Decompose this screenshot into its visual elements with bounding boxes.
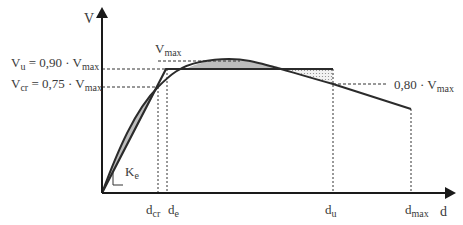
v080-main: 0,80 · V bbox=[394, 77, 437, 92]
vu-eq: = 0,90 · V bbox=[25, 55, 82, 70]
dcr-label: dcr bbox=[146, 203, 160, 219]
dcr-sub: cr bbox=[153, 208, 161, 219]
dmax-sub: max bbox=[412, 208, 429, 219]
x-axis-label: d bbox=[440, 205, 447, 219]
ke-sub: e bbox=[134, 170, 138, 181]
vcr-eq: = 0,75 · V bbox=[28, 76, 85, 91]
vu-label: Vu = 0,90 · Vmax bbox=[11, 56, 99, 72]
de-sub: e bbox=[175, 208, 179, 219]
ke-slope-marker bbox=[113, 172, 123, 185]
vcr-main: V bbox=[11, 76, 20, 91]
vcr-label: Vcr = 0,75 · Vmax bbox=[11, 77, 102, 93]
capacity-curve bbox=[102, 59, 411, 193]
vu-main: V bbox=[11, 55, 20, 70]
v080-sub: max bbox=[437, 83, 454, 94]
diagram-canvas: V d Vmax Vu = 0,90 · Vmax Vcr = 0,75 · V… bbox=[0, 0, 463, 225]
de-label: de bbox=[168, 203, 179, 219]
vmax-main: V bbox=[155, 41, 164, 56]
x-axis-arrow-icon bbox=[445, 187, 456, 199]
v080-label: 0,80 · Vmax bbox=[394, 78, 454, 94]
vmax-label: Vmax bbox=[155, 42, 182, 58]
vu-eq-sub: max bbox=[82, 61, 99, 72]
vcr-sub: cr bbox=[20, 82, 28, 93]
ke-label: Ke bbox=[125, 165, 139, 181]
diagram-svg bbox=[0, 0, 463, 225]
dmax-label: dmax bbox=[405, 203, 429, 219]
vmax-sub: max bbox=[164, 47, 181, 58]
y-axis-label: V bbox=[84, 12, 94, 26]
du-label: du bbox=[325, 203, 337, 219]
ke-main: K bbox=[125, 164, 134, 179]
du-sub: u bbox=[332, 208, 337, 219]
vcr-eq-sub: max bbox=[85, 82, 102, 93]
y-axis-arrow-icon bbox=[96, 7, 108, 18]
